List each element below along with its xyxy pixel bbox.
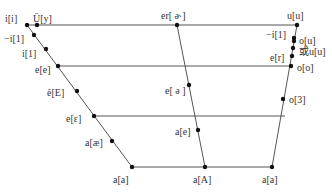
vowel-point-minus-i-1-left: [32, 33, 36, 37]
vowel-point-a-e: [196, 128, 200, 132]
vowel-point-i-i: [25, 23, 29, 27]
vowel-point-er: [175, 23, 179, 27]
vowel-label-huo-u-u: 或u[u]: [299, 46, 326, 58]
vowel-point-a-ae: [110, 139, 114, 143]
vowel-label-u-u: u[u]: [287, 10, 304, 22]
vowel-label-e-e: e[e]: [35, 64, 51, 76]
vowel-label-a-a-right: a[a]: [262, 174, 278, 186]
vowel-point-e-hat-E: [75, 89, 79, 93]
vowel-label-e-r: e[r]: [270, 52, 284, 64]
vowel-label-minus-i-1-left: −i[1]: [4, 33, 24, 45]
vowel-point-e-epsilon: [92, 114, 96, 118]
slanted-lines: [27, 25, 297, 167]
vowel-label-e-epsilon: e[ε]: [66, 113, 81, 125]
vowel-label-a-ae: a[æ]: [85, 137, 103, 149]
vowel-label-e-schwa: e[ ə ]: [165, 85, 186, 97]
vowel-point-e-schwa: [187, 83, 191, 87]
vowel-label-u-y: Ü[y]: [33, 13, 52, 25]
vowel-point-o-o: [289, 64, 293, 68]
vowel-point-i-1: [44, 47, 48, 51]
vowel-label-e-hat-E: ê[E]: [47, 87, 64, 99]
vowel-label-a-a-left: a[a]: [113, 174, 129, 186]
slanted-line: [27, 25, 132, 167]
vowel-point-o-3: [281, 97, 285, 101]
vowel-points: [25, 23, 299, 169]
vowel-label-er: er[ ə˞]: [161, 10, 186, 22]
vowel-point-a-A: [203, 165, 207, 169]
vowel-point-a-a-right: [270, 165, 274, 169]
horizontal-lines: [27, 25, 297, 167]
vowel-label-i-1: i[1]: [22, 48, 36, 60]
vowel-point-e-r: [290, 54, 294, 58]
vowel-label-a-A: a[A]: [193, 174, 211, 186]
vowel-label-minus-i-1-right: −i[1]: [266, 29, 286, 41]
vowel-label-o-3: o[3]: [289, 94, 306, 106]
vowel-label-i-i: i[i]: [5, 13, 17, 25]
vowel-label-a-e: a[e]: [175, 126, 191, 138]
vowel-label-o-o: o[o]: [297, 62, 314, 74]
vowel-point-e-e: [56, 64, 60, 68]
vowel-point-u-u: [295, 23, 299, 27]
vowel-point-a-a-left: [130, 165, 134, 169]
vowel-point-huo-u-u: [291, 46, 295, 50]
vowel-point-o-u: [292, 39, 296, 43]
